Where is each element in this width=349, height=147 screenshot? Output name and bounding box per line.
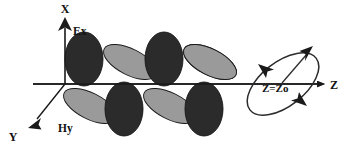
ex-lobe (65, 32, 103, 86)
ex-lobe (185, 82, 223, 136)
hy-label: Hy (58, 122, 73, 135)
y-axis-arrowhead (28, 118, 42, 130)
em-wave-diagram-svg: Z X Y (0, 0, 349, 147)
field-vector-line (282, 54, 307, 83)
y-axis-line (37, 84, 65, 119)
ex-lobe (145, 32, 183, 86)
z-axis-label: Z (330, 78, 338, 92)
y-axis-label: Y (9, 130, 18, 144)
em-wave-figure: Z X Y (0, 0, 349, 147)
ex-label: Ex (73, 25, 87, 37)
hy-lobe-front (178, 37, 241, 86)
z-equals-zo-label: Z=Zo (262, 82, 289, 94)
y-axis: Y (9, 84, 65, 144)
ex-lobe (105, 82, 143, 136)
x-axis-label: X (61, 2, 70, 16)
